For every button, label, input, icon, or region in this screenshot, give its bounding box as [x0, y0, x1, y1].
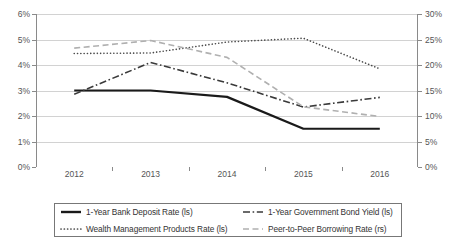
x-axis-tick-label: 2013: [121, 170, 181, 179]
y-axis-left-tick-label: 0%: [2, 163, 30, 172]
y-tick-right: [418, 91, 422, 92]
legend-label: 1-Year Government Bond Yield (ls): [268, 208, 393, 216]
y-tick-right: [418, 40, 422, 41]
chart-legend: 1-Year Bank Deposit Rate (ls)1-Year Gove…: [54, 203, 402, 237]
series-line: [74, 38, 380, 69]
series-line: [74, 41, 380, 117]
legend-item[interactable]: Peer-to-Peer Borrowing Rate (rs): [237, 225, 403, 233]
y-axis-left-tick-label: 5%: [2, 36, 30, 45]
x-axis-tick-label: 2014: [197, 170, 257, 179]
y-tick-right: [418, 142, 422, 143]
legend-item[interactable]: 1-Year Government Bond Yield (ls): [237, 208, 403, 216]
legend-label: Peer-to-Peer Borrowing Rate (rs): [268, 225, 387, 233]
plot-area: [36, 14, 418, 167]
series-lines: [36, 14, 418, 167]
y-axis-right-tick-label: 25%: [425, 36, 442, 45]
y-axis-right-tick-label: 20%: [425, 61, 442, 70]
y-axis-left-tick-label: 4%: [2, 61, 30, 70]
legend-label: Wealth Management Products Rate (ls): [86, 225, 228, 233]
x-axis-tick-label: 2015: [273, 170, 333, 179]
series-line: [74, 91, 380, 129]
dual-axis-line-chart: 0%1%2%3%4%5%6% 0%5%10%15%20%25%30% 20122…: [0, 0, 454, 247]
y-axis-right-tick-label: 30%: [425, 10, 442, 19]
y-axis-left-tick-label: 3%: [2, 87, 30, 96]
x-tick: [265, 167, 266, 171]
legend-swatch-dotted-icon: [60, 225, 82, 233]
legend-swatch-dashdot-icon: [242, 208, 264, 216]
y-tick-right: [418, 167, 422, 168]
x-tick: [342, 167, 343, 171]
y-axis-right-tick-label: 0%: [425, 163, 437, 172]
y-tick-right: [418, 65, 422, 66]
y-tick-right: [418, 14, 422, 15]
y-tick-left: [32, 167, 36, 168]
legend-swatch-dashed-icon: [242, 225, 264, 233]
y-axis-right-tick-label: 5%: [425, 138, 437, 147]
legend-item[interactable]: 1-Year Bank Deposit Rate (ls): [55, 208, 237, 216]
x-tick: [112, 167, 113, 171]
legend-label: 1-Year Bank Deposit Rate (ls): [86, 208, 193, 216]
x-axis-tick-label: 2016: [350, 170, 410, 179]
y-axis-left-tick-label: 6%: [2, 10, 30, 19]
y-axis-right-tick-label: 15%: [425, 87, 442, 96]
legend-item[interactable]: Wealth Management Products Rate (ls): [55, 225, 237, 233]
x-tick: [189, 167, 190, 171]
y-tick-right: [418, 116, 422, 117]
y-axis-right-tick-label: 10%: [425, 112, 442, 121]
y-axis-left-tick-label: 1%: [2, 138, 30, 147]
legend-swatch-solid-icon: [60, 208, 82, 216]
series-line: [74, 62, 380, 107]
x-axis-tick-label: 2012: [44, 170, 104, 179]
y-axis-left-tick-label: 2%: [2, 112, 30, 121]
